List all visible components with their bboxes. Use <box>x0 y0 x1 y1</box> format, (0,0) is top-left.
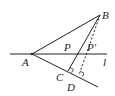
right-angle-d <box>80 71 84 76</box>
point-a-dot <box>31 53 34 56</box>
label-c: C <box>56 71 64 83</box>
geometry-diagram: A B P P′ l C D <box>0 0 115 96</box>
label-a: A <box>21 56 29 68</box>
label-l: l <box>103 56 106 68</box>
label-p-prime: P′ <box>86 41 97 53</box>
ray-a-cd <box>32 54 98 87</box>
label-b: B <box>102 9 109 21</box>
label-d: D <box>66 81 75 93</box>
right-angle-c <box>70 68 74 73</box>
label-p: P <box>63 41 71 53</box>
